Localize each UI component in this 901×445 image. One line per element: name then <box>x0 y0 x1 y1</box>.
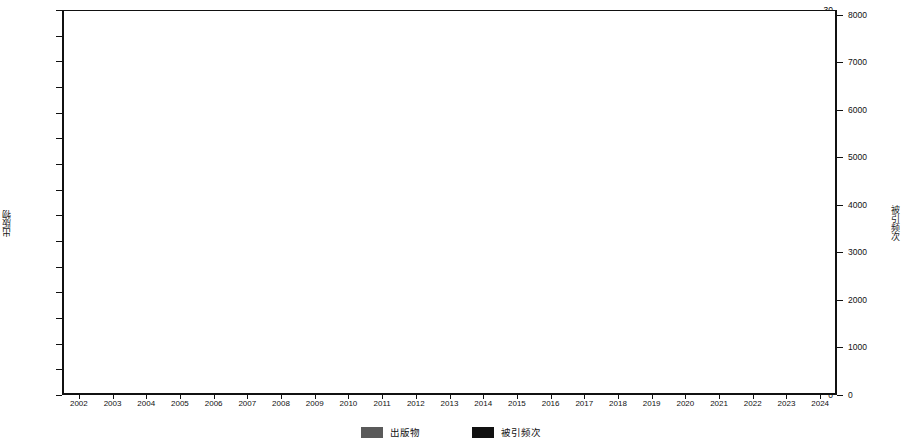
y2-axis-tick-label: 0 <box>848 391 853 400</box>
x-axis-tick-label: 2007 <box>238 400 256 408</box>
left-axis-title: 出版物 <box>2 209 11 236</box>
y2-axis-tick-mark <box>837 252 843 253</box>
publications-citations-chart: 出版物 被引频次 0246810121416182022242628300100… <box>0 0 901 445</box>
x-axis-tick-label: 2018 <box>609 400 627 408</box>
y2-axis-tick-mark <box>837 395 843 396</box>
bar-swatch-icon <box>361 427 383 438</box>
x-axis-tick-label: 2006 <box>205 400 223 408</box>
x-axis-tick-label: 2017 <box>575 400 593 408</box>
legend-item: 出版物 <box>361 425 420 439</box>
y2-axis-tick-mark <box>837 157 843 158</box>
y2-axis-tick-label: 3000 <box>848 248 867 257</box>
y2-axis-tick-mark <box>837 205 843 206</box>
y2-axis-tick-label: 2000 <box>848 296 867 305</box>
y2-axis-tick-label: 7000 <box>848 58 867 67</box>
y2-axis-tick-label: 6000 <box>848 106 867 115</box>
chart-legend: 出版物被引频次 <box>0 425 901 439</box>
legend-item: 被引频次 <box>472 425 541 439</box>
x-axis-tick-label: 2021 <box>710 400 728 408</box>
y2-axis-tick-label: 5000 <box>848 153 867 162</box>
x-axis-tick-label: 2008 <box>272 400 290 408</box>
x-axis-tick-label: 2015 <box>508 400 526 408</box>
x-axis-tick-label: 2005 <box>171 400 189 408</box>
x-axis-tick-label: 2011 <box>373 400 390 408</box>
y-axis-tick-mark <box>56 395 62 396</box>
y2-axis-tick-label: 4000 <box>848 201 867 210</box>
y2-axis-tick-mark <box>837 62 843 63</box>
x-axis-tick-label: 2023 <box>778 400 796 408</box>
legend-label: 被引频次 <box>501 425 541 439</box>
x-axis-tick-label: 2013 <box>441 400 459 408</box>
x-axis-tick-label: 2003 <box>104 400 122 408</box>
x-axis-tick-label: 2016 <box>542 400 560 408</box>
x-axis-tick-label: 2002 <box>70 400 88 408</box>
x-axis-tick-label: 2004 <box>137 400 155 408</box>
y2-axis-tick-label: 8000 <box>848 11 867 20</box>
x-axis-tick-label: 2009 <box>306 400 324 408</box>
y2-axis-tick-mark <box>837 300 843 301</box>
y2-axis-tick-mark <box>837 15 843 16</box>
x-axis-tick-label: 2012 <box>407 400 425 408</box>
plot-area <box>62 10 837 395</box>
x-axis-tick-label: 2010 <box>340 400 358 408</box>
line-swatch-icon <box>472 427 494 438</box>
x-axis-tick-label: 2014 <box>474 400 492 408</box>
plot-frame <box>62 10 837 395</box>
legend-label: 出版物 <box>390 425 420 439</box>
y2-axis-tick-label: 1000 <box>848 343 867 352</box>
x-axis-tick-label: 2024 <box>811 400 829 408</box>
y2-axis-tick-mark <box>837 347 843 348</box>
right-axis-title: 被引频次 <box>890 205 899 241</box>
x-axis-tick-label: 2022 <box>744 400 762 408</box>
x-axis-tick-label: 2020 <box>676 400 694 408</box>
x-axis-tick-label: 2019 <box>643 400 661 408</box>
y2-axis-tick-mark <box>837 110 843 111</box>
